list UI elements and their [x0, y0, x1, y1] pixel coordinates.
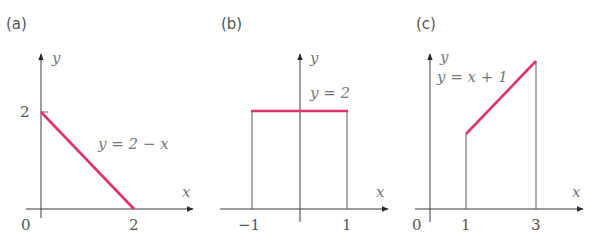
panel-a: (a) y x 2 0 2 y = 2 − x — [6, 15, 193, 234]
origin-label: 0 — [21, 216, 31, 234]
x-axis-label: x — [182, 183, 191, 201]
equation-label: y = 2 − x — [97, 135, 169, 153]
equation-label: y = x + 1 — [436, 68, 508, 86]
function-graphs-figure: (a) y x 2 0 2 y = 2 − x (b) y x −1 1 y =… — [0, 0, 590, 241]
y-axis-label: y — [51, 49, 61, 67]
x-tick-label: 1 — [342, 216, 352, 234]
panel-a-label: (a) — [6, 15, 27, 33]
y-tick-label: 2 — [20, 103, 30, 121]
y-axis-label: y — [439, 48, 449, 66]
x-tick-label: 3 — [531, 216, 541, 234]
x-tick-label: 1 — [461, 216, 471, 234]
panel-c: (c) y y = x + 1 x 0 1 3 — [412, 15, 583, 234]
y-axis-label: y — [309, 49, 319, 67]
x-axis-label: x — [376, 183, 385, 201]
x-tick-label: −1 — [238, 216, 260, 234]
graph-line-a — [41, 112, 134, 209]
origin-label: 0 — [412, 216, 422, 234]
equation-label: y = 2 — [309, 84, 350, 102]
x-tick-label: 2 — [129, 216, 139, 234]
panel-b-label: (b) — [221, 15, 242, 33]
x-axis-label: x — [572, 183, 581, 201]
panel-b: (b) y x −1 1 y = 2 — [220, 15, 388, 234]
panel-c-label: (c) — [416, 15, 436, 33]
